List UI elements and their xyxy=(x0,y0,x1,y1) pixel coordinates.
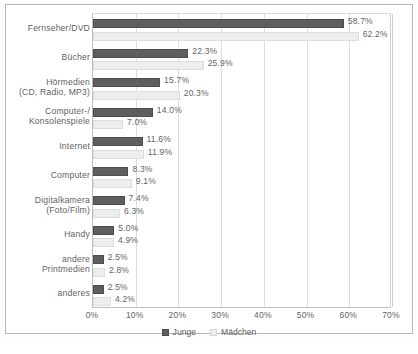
bar-value-label: 62.2% xyxy=(363,29,388,39)
bar-junge: 11.6% xyxy=(93,136,390,147)
bar-rect-junge xyxy=(93,78,160,87)
bar-value-label: 58.7% xyxy=(348,16,373,26)
category-label: Bücher xyxy=(14,52,90,62)
bar-junge: 58.7% xyxy=(93,18,390,29)
x-tick-label: 10% xyxy=(126,310,144,320)
bar-value-label: 14.0% xyxy=(157,105,182,115)
bar-rect-maedchen xyxy=(93,179,132,188)
bar-junge: 14.0% xyxy=(93,107,390,118)
bar-rect-junge xyxy=(93,137,143,146)
category-label: Internet xyxy=(14,141,90,151)
bar-maedchen: 4.9% xyxy=(93,237,390,248)
legend-label: Junge xyxy=(173,327,196,337)
bar-value-label: 7.4% xyxy=(129,193,149,203)
bar-maedchen: 9.1% xyxy=(93,178,390,189)
bar-junge: 15.7% xyxy=(93,77,390,88)
bar-group: 11.6%11.9% xyxy=(93,132,390,162)
bar-rect-maedchen xyxy=(93,91,180,100)
bar-group: 5.0%4.9% xyxy=(93,221,390,251)
category-label: Handy xyxy=(14,229,90,239)
bar-group: 7.4%6.3% xyxy=(93,191,390,221)
category-label: anderes xyxy=(14,288,90,298)
bar-maedchen: 25.9% xyxy=(93,60,390,71)
bar-value-label: 5.0% xyxy=(118,223,138,233)
bar-maedchen: 20.3% xyxy=(93,90,390,101)
legend-swatch-junge xyxy=(162,329,169,336)
bar-rect-maedchen xyxy=(93,238,114,247)
bar-value-label: 6.3% xyxy=(124,206,144,216)
x-tick-label: 40% xyxy=(254,310,272,320)
bar-value-label: 20.3% xyxy=(184,88,209,98)
legend-label: Mädchen xyxy=(221,327,256,337)
category-label: Hörmedien(CD, Radio, MP3) xyxy=(14,77,90,97)
bar-value-label: 25.9% xyxy=(208,58,233,68)
x-tick-label: 30% xyxy=(211,310,229,320)
legend-item: Junge xyxy=(162,327,196,337)
bar-group: 2.5%4.2% xyxy=(93,280,390,310)
gridline xyxy=(392,14,393,307)
bar-rect-junge xyxy=(93,285,104,294)
x-tick-label: 0% xyxy=(86,310,99,320)
bar-value-label: 4.2% xyxy=(115,294,135,304)
bar-value-label: 22.3% xyxy=(192,46,217,56)
legend-item: Mädchen xyxy=(210,327,256,337)
x-tick-label: 50% xyxy=(297,310,315,320)
bar-rect-maedchen xyxy=(93,268,105,277)
bar-value-label: 11.9% xyxy=(148,147,172,157)
chart-figure: 58.7%62.2%22.3%25.9%15.7%20.3%14.0%7.0%1… xyxy=(0,0,418,354)
bar-rect-junge xyxy=(93,255,104,264)
x-axis-ticks: 0%10%20%30%40%50%60%70% xyxy=(92,310,391,324)
bar-rect-maedchen xyxy=(93,61,204,70)
bar-rect-maedchen xyxy=(93,150,144,159)
scan-edge xyxy=(0,338,418,354)
bar-junge: 8.3% xyxy=(93,166,390,177)
bar-rect-junge xyxy=(93,108,153,117)
bar-value-label: 9.1% xyxy=(136,176,156,186)
bar-junge: 7.4% xyxy=(93,195,390,206)
bar-junge: 2.5% xyxy=(93,284,390,295)
bar-group: 58.7%62.2% xyxy=(93,14,390,44)
x-tick-label: 60% xyxy=(339,310,357,320)
bar-value-label: 15.7% xyxy=(164,75,189,85)
bar-value-label: 2.5% xyxy=(108,282,128,292)
bar-junge: 2.5% xyxy=(93,254,390,265)
category-label: Computer-/Konsolenspiele xyxy=(14,106,90,126)
bar-value-label: 11.6% xyxy=(147,134,171,144)
category-label: Fernseher/DVD xyxy=(14,23,90,33)
bar-group: 8.3%9.1% xyxy=(93,162,390,192)
bar-maedchen: 4.2% xyxy=(93,296,390,307)
bar-rect-junge xyxy=(93,196,125,205)
category-label: Computer xyxy=(14,170,90,180)
bar-junge: 22.3% xyxy=(93,48,390,59)
bar-maedchen: 2.8% xyxy=(93,267,390,278)
category-label: Digitalkamera(Foto/Film) xyxy=(14,195,90,215)
category-axis-labels: Fernseher/DVDBücherHörmedien(CD, Radio, … xyxy=(14,13,90,308)
bar-maedchen: 62.2% xyxy=(93,31,390,42)
bar-rect-junge xyxy=(93,226,114,235)
bar-rect-junge xyxy=(93,167,128,176)
plot-area: 58.7%62.2%22.3%25.9%15.7%20.3%14.0%7.0%1… xyxy=(92,13,391,308)
legend-swatch-maedchen xyxy=(210,329,217,336)
chart-frame: 58.7%62.2%22.3%25.9%15.7%20.3%14.0%7.0%1… xyxy=(5,4,413,334)
bar-value-label: 8.3% xyxy=(132,164,152,174)
x-tick-label: 70% xyxy=(382,310,400,320)
bar-group: 2.5%2.8% xyxy=(93,250,390,280)
bar-rect-maedchen xyxy=(93,32,359,41)
bar-rect-maedchen xyxy=(93,209,120,218)
bar-rect-maedchen xyxy=(93,120,123,129)
bar-maedchen: 7.0% xyxy=(93,119,390,130)
bar-maedchen: 6.3% xyxy=(93,208,390,219)
bar-rect-maedchen xyxy=(93,297,111,306)
bar-value-label: 2.8% xyxy=(109,265,129,275)
bar-maedchen: 11.9% xyxy=(93,149,390,160)
bar-value-label: 2.5% xyxy=(108,252,128,262)
bar-value-label: 4.9% xyxy=(118,235,138,245)
chart-legend: JungeMädchen xyxy=(6,327,412,337)
category-label: anderePrintmedien xyxy=(14,254,90,274)
bar-rect-junge xyxy=(93,49,188,58)
bar-group: 14.0%7.0% xyxy=(93,103,390,133)
bar-value-label: 7.0% xyxy=(127,117,147,127)
bar-group: 15.7%20.3% xyxy=(93,73,390,103)
bar-group: 22.3%25.9% xyxy=(93,44,390,74)
x-tick-label: 20% xyxy=(169,310,187,320)
